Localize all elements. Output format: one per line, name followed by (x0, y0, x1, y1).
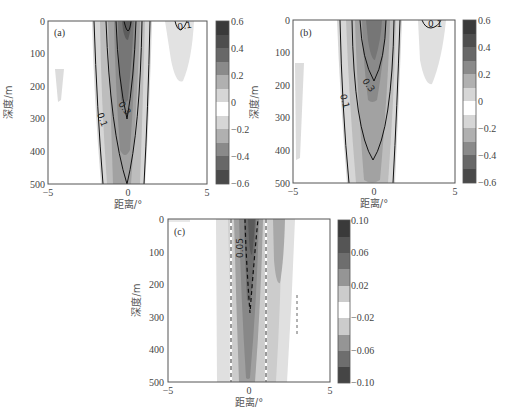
svg-text:−0.2: −0.2 (231, 124, 249, 135)
svg-text:5: 5 (205, 187, 210, 198)
svg-text:400: 400 (30, 146, 45, 157)
x-axis-label: 距离/° (114, 198, 142, 210)
svg-text:0.6: 0.6 (478, 15, 491, 26)
svg-text:−5: −5 (163, 385, 174, 396)
y-axis-label: 深度/m (248, 85, 260, 118)
panel-label: (b) (300, 27, 312, 39)
svg-text:0: 0 (478, 96, 483, 107)
y-axis-label: 深度/m (2, 85, 14, 118)
panel-a-yaxis: 0 100 200 300 400 500 深度/m (2, 16, 45, 190)
svg-text:−0.06: −0.06 (351, 345, 374, 356)
svg-text:0.06: 0.06 (351, 247, 369, 258)
y-axis-label: 深度/m (130, 283, 142, 316)
panel-c-field (168, 219, 330, 382)
panel-c: 0.05 (c) 0 100 200 300 400 500 深度/m −5 0… (130, 214, 374, 408)
svg-text:300: 300 (30, 113, 45, 124)
figure-canvas: 0.1 0.3 0.1 (a) 0 100 200 300 400 500 深度… (0, 0, 506, 419)
svg-text:0.02: 0.02 (351, 280, 369, 291)
svg-text:100: 100 (275, 47, 290, 58)
panel-b-xaxis: −5 0 5 距离/° (288, 186, 458, 209)
svg-text:0: 0 (285, 15, 290, 26)
svg-text:5: 5 (453, 186, 458, 197)
svg-text:0.10: 0.10 (351, 215, 369, 226)
svg-text:−0.6: −0.6 (478, 177, 496, 188)
svg-text:0: 0 (126, 187, 131, 198)
svg-text:−0.02: −0.02 (351, 312, 374, 323)
panel-c-colorbar: 0.10 0.06 0.02 −0.02 −0.06 −0.10 (338, 215, 374, 388)
svg-text:−0.2: −0.2 (478, 123, 496, 134)
svg-text:200: 200 (30, 81, 45, 92)
svg-text:100: 100 (149, 247, 164, 258)
panel-label: (a) (54, 27, 65, 39)
svg-text:−0.6: −0.6 (231, 178, 249, 189)
x-axis-label: 距离/° (360, 197, 388, 209)
contour-label: 0.05 (235, 238, 245, 258)
svg-text:0: 0 (40, 16, 45, 27)
panel-c-yaxis: 0 100 200 300 400 500 深度/m (130, 214, 164, 388)
svg-text:5: 5 (328, 385, 333, 396)
svg-text:−0.4: −0.4 (478, 150, 496, 161)
x-axis-label: 距离/° (235, 396, 263, 408)
svg-text:0.4: 0.4 (231, 43, 244, 54)
panel-b-colorbar: 0.6 0.4 0.2 0 −0.2 −0.4 −0.6 (463, 15, 496, 188)
svg-text:0: 0 (231, 97, 236, 108)
svg-text:200: 200 (275, 80, 290, 91)
panel-a-colorbar: 0.6 0.4 0.2 0 −0.2 −0.4 −0.6 (216, 16, 249, 189)
svg-text:300: 300 (275, 112, 290, 123)
svg-text:−5: −5 (288, 186, 299, 197)
panel-a-xaxis: −5 0 5 距离/° (43, 187, 210, 210)
svg-text:0.2: 0.2 (478, 69, 491, 80)
svg-text:0: 0 (247, 385, 252, 396)
svg-text:400: 400 (275, 145, 290, 156)
svg-text:400: 400 (149, 344, 164, 355)
svg-text:0: 0 (159, 214, 164, 225)
svg-text:200: 200 (149, 279, 164, 290)
panel-c-xaxis: −5 0 5 距离/° (163, 385, 333, 408)
panel-a: 0.1 0.3 0.1 (a) 0 100 200 300 400 500 深度… (2, 16, 249, 210)
panel-b-field (293, 20, 455, 183)
svg-text:0: 0 (372, 186, 377, 197)
svg-text:−0.4: −0.4 (231, 151, 249, 162)
svg-text:300: 300 (149, 312, 164, 323)
svg-text:0.2: 0.2 (231, 70, 244, 81)
svg-text:0.6: 0.6 (231, 16, 244, 27)
panel-b-yaxis: 0 100 200 300 400 500 深度/m (248, 15, 290, 189)
svg-text:−5: −5 (43, 187, 54, 198)
svg-text:−0.10: −0.10 (351, 377, 374, 388)
panel-b: 0.1 0.3 0.1 (b) 0 100 200 300 400 500 深度… (248, 15, 496, 209)
svg-text:100: 100 (30, 48, 45, 59)
svg-text:0.4: 0.4 (478, 42, 491, 53)
panel-label: (c) (174, 226, 185, 238)
